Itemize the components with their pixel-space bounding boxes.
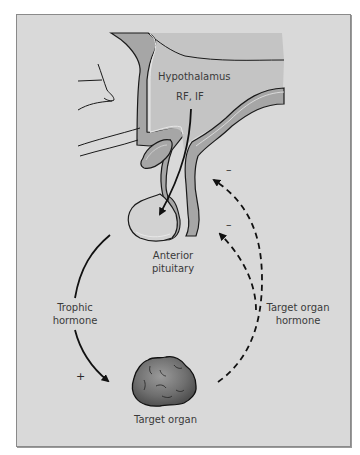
anterior-pituitary-label-line2: pituitary [143,263,203,276]
target-organ-hormone-label-line2: hormone [264,315,332,328]
trophic-hormone-label-line2: hormone [48,315,102,328]
target-organ-hormone-label-line1: Target organ [264,302,332,315]
anterior-pituitary-shape [128,194,180,241]
negative-sign-pituitary: – [226,219,232,230]
trophic-hormone-arrow-upper [75,235,110,298]
positive-sign: + [76,371,85,382]
hypothalamus-label: Hypothalamus [158,71,231,84]
trophic-hormone-label-line1: Trophic [48,302,102,315]
feedback-arrow-to-hypothalamus [214,180,262,382]
target-organ-label: Target organ [134,414,197,427]
negative-sign-hypothalamus: – [226,164,232,175]
anterior-pituitary-label-line1: Anterior [143,250,203,263]
trophic-hormone-label: Trophic hormone [48,302,102,327]
feedback-arrow-to-pituitary [220,234,256,310]
target-organ-shape [132,357,196,407]
endocrine-feedback-diagram [0,0,360,455]
releasing-factors-label: RF, IF [176,91,204,104]
skull-outline-lines [78,64,140,156]
target-organ-hormone-label: Target organ hormone [264,302,332,327]
anterior-pituitary-label: Anterior pituitary [143,250,203,275]
